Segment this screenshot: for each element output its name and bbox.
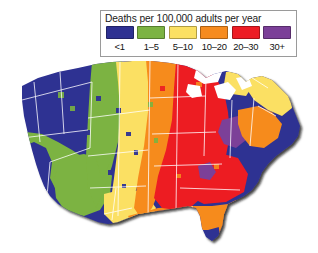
legend-item-5-10: 5–10 <box>167 26 199 55</box>
legend-label-30plus: 30+ <box>270 42 285 51</box>
legend-label-lt1: <1 <box>115 42 125 51</box>
legend-label-10-20: 10–20 <box>202 42 227 51</box>
legend-swatch-5-10 <box>169 26 197 39</box>
legend-swatch-1-5 <box>137 26 165 39</box>
legend-item-lt1: <1 <box>104 26 136 55</box>
map-svg <box>0 38 318 253</box>
legend-item-30plus: 30+ <box>262 26 294 55</box>
legend-label-5-10: 5–10 <box>173 42 193 51</box>
legend-swatch-lt1 <box>106 26 134 39</box>
legend-label-1-5: 1–5 <box>144 42 159 51</box>
map-regions <box>0 38 318 253</box>
legend-item-20-30: 20–30 <box>230 26 262 55</box>
choropleth-map <box>0 38 318 253</box>
legend: Deaths per 100,000 adults per year <1 1–… <box>100 10 297 57</box>
legend-label-20-30: 20–30 <box>233 42 258 51</box>
map-figure: Deaths per 100,000 adults per year <1 1–… <box>0 0 318 253</box>
legend-swatch-20-30 <box>232 26 260 39</box>
legend-item-1-5: 1–5 <box>136 26 168 55</box>
region-florida-peninsula <box>218 204 242 242</box>
region-south-florida-tip <box>224 230 234 242</box>
legend-scale: <1 1–5 5–10 10–20 20–30 30+ <box>101 24 296 56</box>
legend-swatch-30plus <box>263 26 291 39</box>
legend-item-10-20: 10–20 <box>199 26 231 55</box>
legend-swatch-10-20 <box>200 26 228 39</box>
legend-title: Deaths per 100,000 adults per year <box>101 11 296 24</box>
